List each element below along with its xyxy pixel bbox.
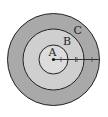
- label-b: B: [63, 35, 71, 48]
- label-c: C: [74, 24, 82, 37]
- concentric-circles-diagram: A B C: [0, 0, 108, 117]
- label-a: A: [48, 46, 58, 59]
